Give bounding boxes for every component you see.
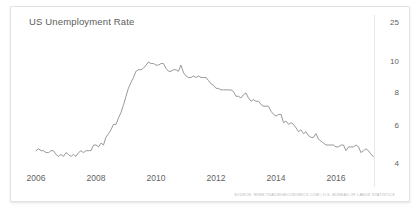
x-axis-tick-label: 2006 bbox=[27, 173, 46, 183]
y-axis-tick-label: 6 bbox=[395, 122, 399, 130]
x-axis-tick-label: 2016 bbox=[327, 173, 346, 183]
plot-area bbox=[22, 13, 390, 185]
series-line-us-unemployment-rate bbox=[36, 62, 374, 156]
y-axis-tick-label: 4 bbox=[395, 160, 399, 168]
y-axis-tick-label: 25 bbox=[390, 19, 399, 27]
x-axis-tick-label: 2010 bbox=[147, 173, 166, 183]
y-axis: 2510864 bbox=[375, 13, 405, 189]
source-attribution: SOURCE: WWW.TRADINGECONOMICS.COM | U.S. … bbox=[234, 193, 395, 197]
unemployment-line-chart bbox=[22, 13, 390, 185]
chart-card: US Unemployment Rate 2510864 20062008201… bbox=[10, 6, 410, 202]
x-axis-tick-label: 2012 bbox=[207, 173, 226, 183]
x-axis: 200620082010201220142016 bbox=[11, 173, 411, 185]
x-axis-tick-label: 2008 bbox=[87, 173, 106, 183]
chart-widget: US Unemployment Rate 2510864 20062008201… bbox=[0, 0, 420, 222]
y-axis-tick-label: 8 bbox=[395, 89, 399, 97]
y-axis-tick-label: 10 bbox=[390, 58, 399, 66]
x-axis-tick-label: 2014 bbox=[267, 173, 286, 183]
